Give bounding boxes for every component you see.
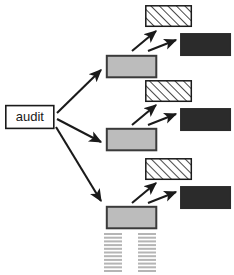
continuation-dash <box>104 248 122 250</box>
branch-1-dark-node[interactable] <box>181 34 231 56</box>
continuation-dash <box>138 255 156 257</box>
branch-2-group <box>107 81 231 151</box>
continuation-dash <box>104 240 122 242</box>
edge-branch-1-to-hatched <box>132 31 156 51</box>
continuation-dash <box>138 233 156 235</box>
root-node-audit[interactable]: audit <box>6 106 54 129</box>
continuation-dash <box>138 237 156 239</box>
branch-3-hatched-node[interactable] <box>146 159 192 180</box>
continuation-dash <box>138 259 156 261</box>
continuation-dash <box>104 259 122 261</box>
continuation-dash <box>104 252 122 254</box>
continuation-dash <box>138 248 156 250</box>
edge-branch-1-to-dark <box>148 40 176 51</box>
continuation-dash <box>104 266 122 268</box>
branch-3-dark-node[interactable] <box>181 187 231 209</box>
continuation-dash <box>138 252 156 254</box>
branch-3-gray-node[interactable] <box>107 207 157 229</box>
continuation-dash <box>138 263 156 265</box>
branch-1-hatched-node[interactable] <box>146 6 192 27</box>
edges-root-to-branches <box>56 70 101 201</box>
edge-branch-3-to-hatched <box>132 183 156 203</box>
continuation-dash <box>104 255 122 257</box>
continuation-dash <box>138 240 156 242</box>
edge-audit-to-branch-1 <box>57 70 101 113</box>
continuation-dash <box>104 237 122 239</box>
edge-branch-3-to-dark <box>148 192 176 203</box>
edge-branch-2-to-hatched <box>132 105 156 125</box>
continuation-dash <box>104 244 122 246</box>
continuation-dash <box>138 266 156 268</box>
continuation-dash <box>138 270 156 272</box>
branch-3-group <box>107 159 231 229</box>
branch-1-group <box>107 6 231 78</box>
continuation-dash <box>104 270 122 272</box>
branch-2-dark-node[interactable] <box>181 109 231 131</box>
branch-2-hatched-node[interactable] <box>146 81 192 102</box>
diagram-canvas: audit <box>0 0 234 275</box>
branch-2-gray-node[interactable] <box>107 129 157 151</box>
continuation-column-left <box>104 233 122 272</box>
audit-tree-diagram: audit <box>0 0 234 275</box>
continuation-marks <box>104 233 156 272</box>
continuation-column-right <box>138 233 156 272</box>
continuation-dash <box>138 244 156 246</box>
continuation-dash <box>104 263 122 265</box>
continuation-dash <box>104 233 122 235</box>
root-node-label: audit <box>16 109 45 124</box>
branch-1-gray-node[interactable] <box>107 56 157 78</box>
edge-branch-2-to-dark <box>148 114 176 125</box>
